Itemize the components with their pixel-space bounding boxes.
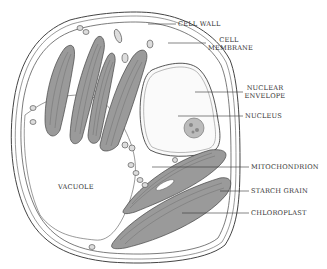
- label-mitochondrion: MITOCHONDRION: [251, 163, 319, 171]
- nucleolus: [184, 118, 204, 138]
- label-cell-wall: CELL WALL: [178, 20, 220, 28]
- label-cell-membrane-line1: CELL: [208, 36, 250, 44]
- label-nuclear-envelope-line1: NUCLEAR: [244, 84, 286, 92]
- label-cell-membrane: CELL MEMBRANE: [208, 36, 250, 52]
- label-nuclear-envelope: NUCLEAR ENVELOPE: [244, 84, 286, 100]
- label-vacuole: VACUOLE: [58, 183, 94, 191]
- label-chloroplast: CHLOROPLAST: [251, 209, 307, 217]
- label-nucleus: NUCLEUS: [245, 112, 282, 120]
- nuclear-envelope: [140, 63, 220, 156]
- label-cell-membrane-line2: MEMBRANE: [208, 44, 250, 52]
- plant-cell-diagram: [0, 0, 327, 269]
- label-starch-grain: STARCH GRAIN: [251, 187, 308, 195]
- label-nuclear-envelope-line2: ENVELOPE: [244, 92, 286, 100]
